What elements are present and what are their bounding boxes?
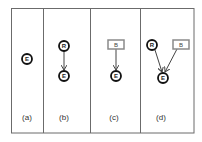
panel-d: R B E (d)	[147, 40, 189, 122]
node-b-label: B	[114, 42, 118, 48]
edge-r-to-e	[155, 50, 162, 72]
panel-b: R E (b)	[59, 41, 69, 122]
panel-label-b: (b)	[59, 113, 69, 122]
node-r-label: R	[150, 42, 155, 48]
panel-c: B E (c)	[108, 40, 124, 122]
node-e-label: E	[161, 75, 165, 81]
diagram-canvas: E (a) R E (b) B E (c) R B E (d)	[0, 0, 202, 142]
node-b-label: B	[179, 42, 183, 48]
node-r-label: R	[62, 43, 67, 49]
node-e-label: E	[62, 73, 66, 79]
node-e-label: E	[25, 56, 29, 62]
panel-a: E (a)	[22, 54, 32, 122]
node-e-label: E	[114, 73, 118, 79]
outer-frame	[12, 9, 195, 134]
panel-label-a: (a)	[22, 113, 32, 122]
panel-label-c: (c)	[109, 113, 119, 122]
edge-b-to-e	[165, 49, 177, 72]
panel-label-d: (d)	[156, 113, 166, 122]
